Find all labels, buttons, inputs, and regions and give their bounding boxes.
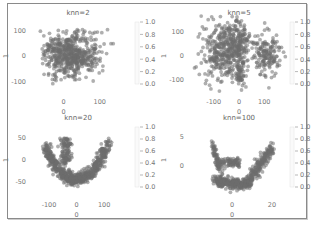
scatter-point [106,28,110,32]
scatter-point [97,58,101,62]
scatter-point [255,177,259,181]
scatter-point [51,78,55,82]
colorbar-tick-label: 0.2 [145,68,155,76]
scatter-point [222,62,226,66]
subplot-1: knn=21000-1001010001.00.80.60.40.20.0 [2,9,155,116]
scatter-point [55,160,59,164]
scatter-point [40,47,44,51]
scatter-point [230,15,234,19]
subplot-title: knn=2 [66,9,89,17]
scatter-point [62,141,66,145]
colorbar-tick-label: 0.8 [300,135,310,143]
scatter-point [227,178,231,182]
scatter-point [74,78,78,82]
scatter-point [219,15,223,19]
scatter-point [228,49,232,53]
scatter-point [70,61,74,65]
scatter-point [238,40,242,44]
scatter-point [84,75,88,79]
scatter-point [235,65,239,69]
scatter-point [103,165,107,169]
scatter-point [228,24,232,28]
scatter-point [48,55,52,59]
y-tick-label: -100 [169,76,184,84]
scatter-point [255,50,259,54]
scatter-point [253,34,257,38]
scatter-point [56,29,60,33]
scatter-point [202,57,206,61]
scatter-point [209,71,213,75]
scatter-point [54,79,58,83]
scatter-point [104,140,108,144]
x-tick-label: 0 [75,201,79,209]
scatter-point [92,38,96,42]
y-tick-label: 5 [180,133,184,141]
scatter-point [206,18,210,22]
scatter-point [46,45,50,49]
scatter-point [42,72,46,76]
scatter-point [87,176,91,180]
scatter-point [210,15,214,19]
scatter-point [232,43,236,47]
scatter-point [232,24,236,28]
colorbar-tick-label: 0.8 [145,135,155,143]
scatter-point [226,62,230,66]
scatter-point [83,29,87,33]
scatter-point [265,147,269,151]
figure: knn=21000-1001010001.00.80.60.40.20.0knn… [0,0,312,227]
scatter-point [255,61,259,65]
scatter-point [49,163,53,167]
scatter-point [59,62,63,66]
scatter-point [215,177,219,181]
scatter-point [233,27,237,31]
scatter-point [242,70,246,74]
scatter-point [217,45,221,49]
subplot-2: knn=51000-1001-100010001.00.80.60.40.20.… [160,9,310,116]
scatter-point [71,67,75,71]
scatter-point [231,186,235,190]
scatter-point [56,58,60,62]
x-axis-label: 0 [75,211,79,219]
scatter-point [252,55,256,59]
colorbar: 1.00.80.60.40.20.0 [290,123,310,191]
x-tick-label: 100 [258,98,270,106]
scatter-point [73,72,77,76]
scatter-point [51,82,55,86]
colorbar-bar [135,127,139,187]
scatter-point [210,142,214,146]
scatter-point [59,78,63,82]
colorbar-tick-label: 0.8 [300,31,310,39]
x-tick-label: 0 [237,98,241,106]
scatter-point [283,55,287,59]
scatter-point [91,51,95,55]
scatter-point [89,59,93,63]
scatter-point [211,39,215,43]
scatter-point [91,79,95,83]
colorbar-tick-label: 0.4 [145,56,155,64]
scatter-point [240,78,244,82]
scatter-point [69,40,73,44]
scatter-point [54,62,58,66]
scatter-point [209,60,213,64]
subplot-title: knn=20 [64,114,92,122]
scatter-point [193,66,197,70]
scatter-point [219,80,223,84]
scatter-point [263,68,267,72]
scatter-point [250,46,254,50]
scatter-point [245,175,249,179]
scatter-point [226,175,230,179]
scatter-point [238,158,242,162]
colorbar-tick-label: 0.6 [300,147,310,155]
scatter-point [254,46,258,50]
scatter-point [258,73,262,77]
scatter-point [97,71,101,75]
scatter-point [199,14,203,18]
scatter-point [84,52,88,56]
scatter-point [227,29,231,33]
subplot-3: knn=20500-501-100010001.00.80.60.40.20.0 [2,114,155,219]
scatter-point [102,160,106,164]
scatter-point [259,47,263,51]
colorbar-tick-label: 0.0 [145,80,155,88]
y-axis-label: 1 [2,158,10,162]
scatter-point [267,157,271,161]
